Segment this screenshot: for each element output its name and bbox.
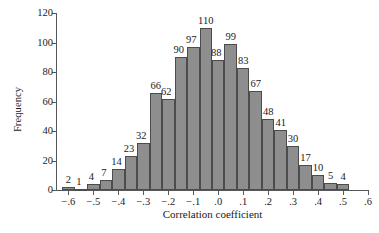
bar-value-label: 83	[228, 55, 258, 66]
x-tick-mark	[93, 191, 94, 195]
x-tick-mark	[243, 191, 244, 195]
bar-value-label: 30	[278, 133, 308, 144]
x-tick-mark	[268, 191, 269, 195]
histogram-bar	[162, 99, 174, 190]
y-tick-0: 0	[56, 190, 57, 191]
x-tick-mark	[143, 191, 144, 195]
histogram-bar	[212, 60, 224, 190]
x-tick-mark	[318, 191, 319, 195]
histogram-bar	[175, 57, 187, 190]
histogram-bar	[75, 189, 87, 191]
x-tick-mark	[193, 191, 194, 195]
y-tick-label: 0	[48, 183, 53, 196]
x-tick-mark	[343, 191, 344, 195]
histogram-bar	[137, 143, 149, 190]
x-tick-mark	[118, 191, 119, 195]
plot-area: 020406080100120 −.6−.5−.4−.3−.2−.1.0.1.2…	[56, 13, 368, 190]
bar-value-label: 67	[241, 78, 271, 89]
y-tick-60: 60	[56, 102, 57, 103]
y-tick-label: 60	[43, 95, 54, 108]
bar-value-label: 4	[328, 171, 358, 182]
y-tick-80: 80	[56, 72, 57, 73]
x-tick-mark	[168, 191, 169, 195]
y-tick-40: 40	[56, 131, 57, 132]
histogram-bar	[112, 169, 124, 190]
y-axis-title: Frequency	[12, 50, 23, 170]
histogram-bar	[100, 180, 112, 190]
x-tick-mark	[293, 191, 294, 195]
y-tick-label: 20	[43, 154, 54, 167]
y-tick-20: 20	[56, 161, 57, 162]
x-tick-mark	[368, 191, 369, 195]
x-tick-mark	[218, 191, 219, 195]
y-tick-label: 120	[37, 6, 53, 19]
histogram-bar	[62, 187, 74, 190]
bar-value-label: 99	[216, 31, 246, 42]
y-tick-label: 40	[43, 124, 54, 137]
x-tick-label: .6	[348, 196, 379, 207]
x-tick-mark	[68, 191, 69, 195]
histogram-bar	[125, 156, 137, 190]
histogram-bar	[224, 44, 236, 190]
histogram-figure: Frequency 020406080100120 −.6−.5−.4−.3−.…	[0, 0, 379, 233]
bar-value-label: 110	[191, 15, 221, 26]
y-tick-120: 120	[56, 13, 57, 14]
x-axis-line	[56, 190, 369, 191]
histogram-bar	[150, 93, 162, 190]
histogram-bar	[324, 183, 336, 190]
y-tick-label: 100	[37, 36, 53, 49]
y-tick-100: 100	[56, 43, 57, 44]
x-axis-title: Correlation coefficient	[56, 208, 369, 220]
histogram-bar	[87, 184, 99, 190]
histogram-bar	[187, 47, 199, 190]
y-tick-label: 80	[43, 65, 54, 78]
histogram-bar	[262, 119, 274, 190]
bar-value-label: 41	[266, 117, 296, 128]
histogram-bar	[337, 184, 349, 190]
